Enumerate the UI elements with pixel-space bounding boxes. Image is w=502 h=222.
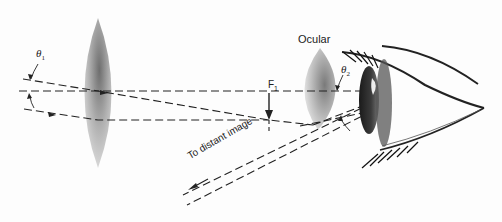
theta1-marker [30, 64, 38, 108]
image-arrowhead-icon [265, 110, 273, 120]
theta2-arrow-icon [335, 85, 340, 91]
theta1-arrow-icon [27, 93, 32, 99]
focal-point-subscript: 1 [274, 85, 278, 92]
ray-diagram-canvas [0, 0, 502, 222]
theta1-label: θ1 [36, 47, 45, 62]
ocular-label: Ocular [298, 33, 330, 45]
eye-illustration [342, 46, 484, 168]
focal-point-label: F1 [268, 79, 278, 92]
theta2-label: θ2 [341, 63, 350, 78]
theta1-subscript: 1 [41, 54, 45, 62]
theta1-arrow-icon [28, 74, 33, 80]
telescope-diagram: Ocular F1 θ1 θ2 To distant image [0, 0, 502, 222]
lower-ray [24, 109, 269, 120]
theta2-subscript: 2 [346, 70, 350, 78]
virtual-ray-2 [187, 111, 372, 205]
